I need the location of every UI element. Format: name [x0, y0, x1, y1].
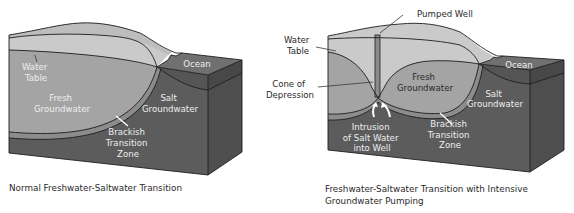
right-ocean-label: Ocean — [505, 60, 533, 70]
right-block-diagram: Pumped Well Water Table Cone of Depressi… — [266, 9, 564, 172]
pumped-well-pipe — [375, 35, 380, 97]
left-block-diagram: Water Table Fresh Groundwater Salt Groun… — [9, 23, 242, 175]
left-water-table-label: Water Table — [22, 62, 50, 83]
saltwater-intrusion-figure: Water Table Fresh Groundwater Salt Groun… — [0, 0, 574, 213]
right-caption: Freshwater-Saltwater Transition with Int… — [325, 184, 531, 206]
right-water-table-label: Water Table — [284, 35, 312, 56]
left-caption: Normal Freshwater-Saltwater Transition — [9, 183, 182, 193]
pumped-well-label: Pumped Well — [417, 9, 473, 19]
cone-of-depression-label: Cone of Depression — [266, 79, 314, 100]
left-ocean-label: Ocean — [183, 59, 211, 69]
